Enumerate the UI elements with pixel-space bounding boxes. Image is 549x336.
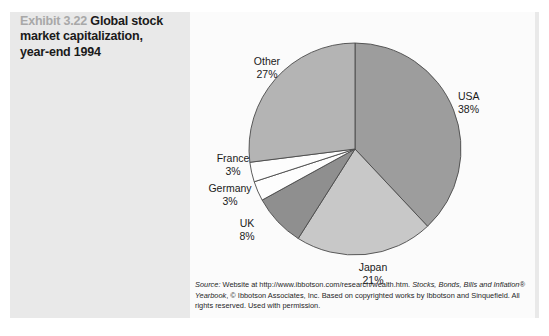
pie-label-france: France 3% <box>200 152 266 177</box>
pie-label-usa-name: USA <box>458 90 480 103</box>
pie-label-japan-name: Japan <box>343 261 403 274</box>
source-text-2: , © Ibbotson Associates, Inc. Based on c… <box>226 291 424 300</box>
pie-label-usa: USA 38% <box>458 90 480 115</box>
pie-label-germany: Germany 3% <box>194 182 266 207</box>
pie-label-germany-name: Germany <box>194 182 266 195</box>
exhibit-title-block: Exhibit 3.22 Global stock market capital… <box>20 14 180 60</box>
source-text-1: Website at http://www.ibbotson.com/resea… <box>220 280 412 289</box>
exhibit-title-line-2: market capitalization, <box>20 29 180 44</box>
chart-panel: USA 38% Japan 21% UK 8% Germany 3% Franc… <box>190 12 535 318</box>
exhibit-number: Exhibit 3.22 <box>20 14 87 28</box>
pie-label-germany-value: 3% <box>194 195 266 208</box>
exhibit-title-line-3: year-end 1994 <box>20 45 180 60</box>
source-note: Source: Website at http://www.ibbotson.c… <box>195 280 533 312</box>
pie-label-france-value: 3% <box>200 165 266 178</box>
pie-label-other-value: 27% <box>237 68 297 81</box>
pie-label-other-name: Other <box>237 55 297 68</box>
source-label: Source: <box>195 280 220 289</box>
exhibit-figure: Exhibit 3.22 Global stock market capital… <box>0 0 549 336</box>
exhibit-title-line-1: Exhibit 3.22 Global stock <box>20 14 180 29</box>
pie-label-uk-name: UK <box>227 217 267 230</box>
pie-label-uk-value: 8% <box>227 230 267 243</box>
pie-label-france-name: France <box>200 152 266 165</box>
pie-label-uk: UK 8% <box>227 217 267 242</box>
pie-label-other: Other 27% <box>237 55 297 80</box>
pie-label-usa-value: 38% <box>458 103 480 116</box>
source-italic-1: Stocks, Bonds, Bills <box>412 280 477 289</box>
pie-chart: USA 38% Japan 21% UK 8% Germany 3% Franc… <box>190 12 535 282</box>
page-title: Global stock <box>90 14 163 28</box>
